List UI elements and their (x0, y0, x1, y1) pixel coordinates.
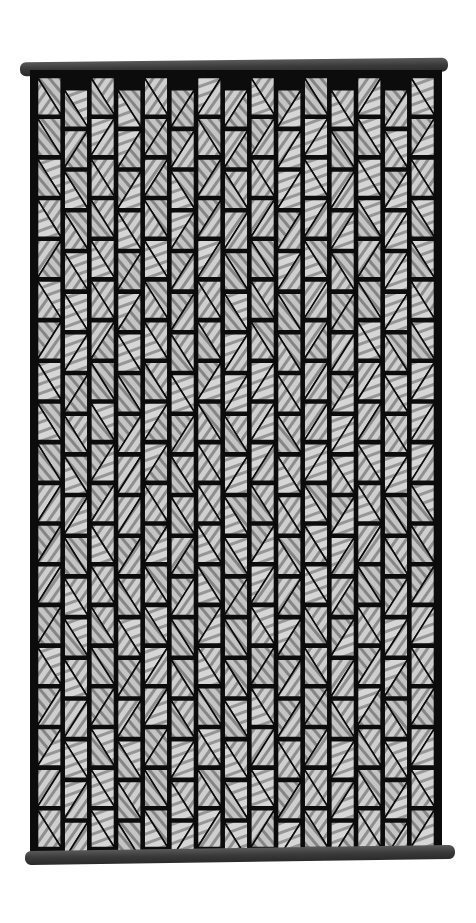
triangle-pattern (30, 70, 442, 855)
woven-panel (30, 70, 442, 855)
